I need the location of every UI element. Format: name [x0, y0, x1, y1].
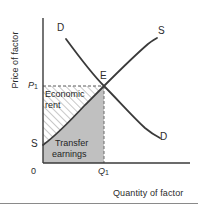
quantity-tick-subscript: 1	[105, 169, 109, 176]
economic-rent-label-line1: Economic	[45, 89, 85, 100]
bottom-divider	[0, 203, 198, 204]
price-tick-label: P1	[28, 80, 38, 92]
demand-curve-label-bottom: D	[160, 132, 167, 142]
demand-curve-label-top: D	[57, 23, 64, 33]
economic-rent-label-line2: rent	[45, 100, 61, 111]
figure-container: Price of factor Quantity of factor 0 P1 …	[0, 0, 198, 211]
equilibrium-point-label: E	[100, 71, 107, 81]
supply-curve-label-origin: S	[31, 139, 38, 149]
x-axis-title: Quantity of factor	[113, 188, 183, 198]
transfer-earnings-label-line1: Transfer	[55, 138, 88, 149]
origin-label: 0	[31, 166, 36, 176]
price-tick-subscript: 1	[34, 83, 38, 90]
transfer-earnings-label-line2: earnings	[52, 149, 87, 160]
y-axis-title: Price of factor	[10, 24, 20, 96]
supply-demand-chart	[0, 0, 198, 211]
supply-curve-label-top: S	[158, 26, 165, 36]
quantity-tick-label: Q1	[98, 166, 109, 178]
